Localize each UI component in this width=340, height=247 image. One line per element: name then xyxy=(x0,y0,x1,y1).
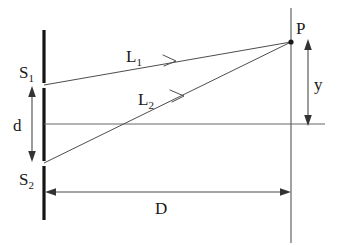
label-ray-l2: L2 xyxy=(138,90,154,111)
label-slit-2: S2 xyxy=(19,170,34,191)
ray-l1 xyxy=(44,42,291,85)
label-point-p: P xyxy=(296,19,305,38)
label-screen-distance: D xyxy=(155,199,167,218)
double-slit-figure: S1 S2 L1 L2 P d y D xyxy=(0,0,340,247)
dimension-dd-arrowhead-left xyxy=(45,188,56,196)
label-slit-1: S1 xyxy=(19,63,34,84)
diagram-canvas: S1 S2 L1 L2 P d y D xyxy=(0,0,340,247)
label-ray-l1: L1 xyxy=(126,47,142,68)
point-p-dot xyxy=(288,39,293,44)
label-screen-offset: y xyxy=(314,75,323,94)
dimension-y-arrowhead-top xyxy=(304,39,312,50)
dimension-dd xyxy=(45,188,291,196)
dimension-y xyxy=(304,39,312,126)
dimension-d-arrowhead-bottom xyxy=(28,151,36,162)
ray-l1-line xyxy=(44,42,291,85)
dimension-d-arrowhead-top xyxy=(28,86,36,97)
dimension-d xyxy=(28,86,36,162)
dimension-dd-arrowhead-right xyxy=(280,188,291,196)
ray-l2-line xyxy=(44,42,291,163)
ray-l2 xyxy=(44,42,291,163)
label-slit-separation: d xyxy=(13,116,22,135)
